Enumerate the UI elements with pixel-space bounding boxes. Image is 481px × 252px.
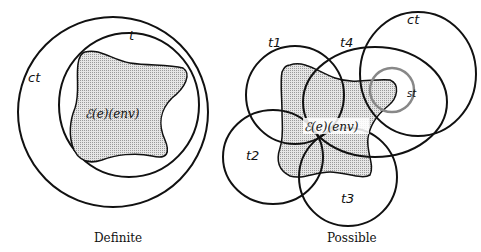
definite-panel: ct t ℰ(e)(env) Definite bbox=[18, 17, 208, 245]
ct-label: ct bbox=[407, 12, 420, 27]
region-label: ℰ(e)(env) bbox=[85, 107, 140, 121]
t1-label: t1 bbox=[268, 35, 281, 50]
possible-panel: ℰ(e)(env) ct t1 t4 t2 t3 st Possible bbox=[223, 12, 476, 245]
definite-caption: Definite bbox=[94, 231, 142, 245]
t-label: t bbox=[129, 28, 135, 43]
diagram-canvas: ct t ℰ(e)(env) Definite ℰ(e)(env) ct t1 … bbox=[0, 0, 481, 252]
t4-label: t4 bbox=[340, 35, 353, 50]
t2-label: t2 bbox=[246, 148, 259, 163]
t3-label: t3 bbox=[341, 191, 354, 206]
possible-caption: Possible bbox=[327, 231, 377, 245]
ct-label: ct bbox=[28, 70, 41, 85]
st-label: st bbox=[407, 88, 417, 99]
region-label: ℰ(e)(env) bbox=[304, 120, 359, 134]
